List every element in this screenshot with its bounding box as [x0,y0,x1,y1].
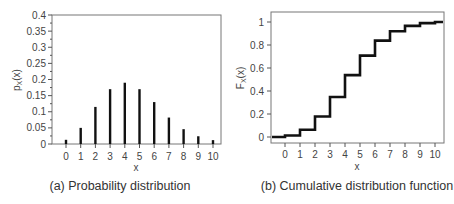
cdf-x-tick-label: 6 [372,149,378,160]
cdf-caption: (b) Cumulative distribution function [261,179,453,193]
pmf-plot-frame [52,15,221,144]
cdf-y-tick-label: 0 [258,132,264,143]
cdf-y-tick-label: 0.4 [250,86,264,97]
cdf-x-tick-label: 8 [402,149,408,160]
pmf-y-tick-label: 0.15 [27,90,47,101]
figure: 00.050.10.150.20.250.30.350.4 0123456789… [0,0,454,204]
pmf-y-tick-label: 0.35 [27,26,47,37]
pmf-y-tick-label: 0.1 [32,106,46,117]
pmf-stems [66,83,213,144]
cdf-x-axis: 012345678910 [282,143,441,160]
pmf-x-tick-label: 4 [122,151,128,162]
pmf-x-tick-label: 5 [137,151,143,162]
cdf-y-tick-label: 0.2 [250,109,264,120]
cdf-x-tick-label: 9 [417,149,423,160]
cdf-x-tick-label: 4 [342,149,348,160]
pmf-x-tick-label: 3 [107,151,113,162]
pmf-x-tick-label: 7 [166,151,172,162]
pmf-x-tick-label: 1 [78,151,84,162]
pmf-x-axis-label: x [134,162,139,173]
pmf-x-tick-label: 0 [63,151,69,162]
pmf-x-axis: 012345678910 [63,144,219,162]
pmf-x-tick-label: 2 [93,151,99,162]
cdf-y-tick-label: 1 [258,17,264,28]
cdf-x-tick-label: 2 [312,149,318,160]
cdf-step-line [272,22,443,137]
cdf-y-tick-label: 0.6 [250,63,264,74]
cdf-x-tick-label: 0 [282,149,288,160]
cdf-y-axis-label: FX(x) [235,67,247,89]
cdf-x-tick-label: 1 [297,149,303,160]
pmf-x-tick-label: 10 [207,151,219,162]
cdf-plot-frame [271,12,444,143]
pmf-y-axis-label: pX(x) [11,69,23,91]
cdf-x-axis-label: x [355,161,360,172]
pmf-y-tick-label: 0.05 [27,122,47,133]
cdf-x-tick-label: 3 [327,149,333,160]
cdf-x-tick-label: 10 [429,149,441,160]
cdf-y-tick-label: 0.8 [250,40,264,51]
pmf-x-tick-label: 6 [151,151,157,162]
pmf-y-tick-label: 0.3 [32,42,46,53]
pmf-panel: 00.050.10.150.20.250.30.350.4 0123456789… [11,10,221,194]
pmf-caption: (a) Probability distribution [49,179,190,193]
cdf-x-tick-label: 7 [387,149,393,160]
cdf-panel: 00.20.40.60.81 012345678910 x FX(x) (b) … [235,12,453,193]
pmf-y-axis: 00.050.10.150.20.250.30.350.4 [27,10,52,150]
cdf-x-tick-label: 5 [357,149,363,160]
pmf-y-tick-label: 0 [40,139,46,150]
pmf-x-tick-label: 8 [181,151,187,162]
cdf-y-axis: 00.20.40.60.81 [250,17,271,143]
pmf-y-tick-label: 0.4 [32,10,46,21]
pmf-x-tick-label: 9 [196,151,202,162]
pmf-y-tick-label: 0.2 [32,74,46,85]
pmf-y-tick-label: 0.25 [27,58,47,69]
